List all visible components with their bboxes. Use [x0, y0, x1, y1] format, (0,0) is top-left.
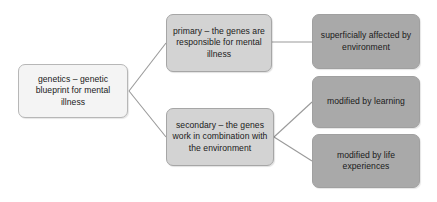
- connector-root-to-secondary: [129, 91, 166, 137]
- node-genetics-root[interactable]: genetics – genetic blueprint for mental …: [18, 64, 128, 118]
- node-secondary-label: secondary – the genes work in combinatio…: [172, 120, 268, 154]
- connector-root-to-primary: [129, 43, 166, 91]
- node-modified-by-life-experiences[interactable]: modified by life experiences: [312, 134, 420, 188]
- node-superficially-affected[interactable]: superficially affected by environment: [312, 14, 420, 69]
- connector-secondary-to-modified-by-learning: [274, 102, 312, 137]
- node-primary[interactable]: primary – the genes are responsible for …: [166, 14, 272, 72]
- diagram-canvas: genetics – genetic blueprint for mental …: [0, 0, 437, 202]
- node-primary-label: primary – the genes are responsible for …: [172, 26, 266, 60]
- node-modified-by-life-experiences-label: modified by life experiences: [318, 150, 414, 172]
- node-modified-by-learning-label: modified by learning: [318, 96, 414, 107]
- node-modified-by-learning[interactable]: modified by learning: [312, 76, 420, 128]
- node-secondary[interactable]: secondary – the genes work in combinatio…: [166, 108, 274, 166]
- connector-secondary-to-modified-by-life-experiences: [274, 137, 312, 161]
- node-superficially-affected-label: superficially affected by environment: [318, 30, 414, 52]
- node-genetics-root-label: genetics – genetic blueprint for mental …: [24, 74, 122, 108]
